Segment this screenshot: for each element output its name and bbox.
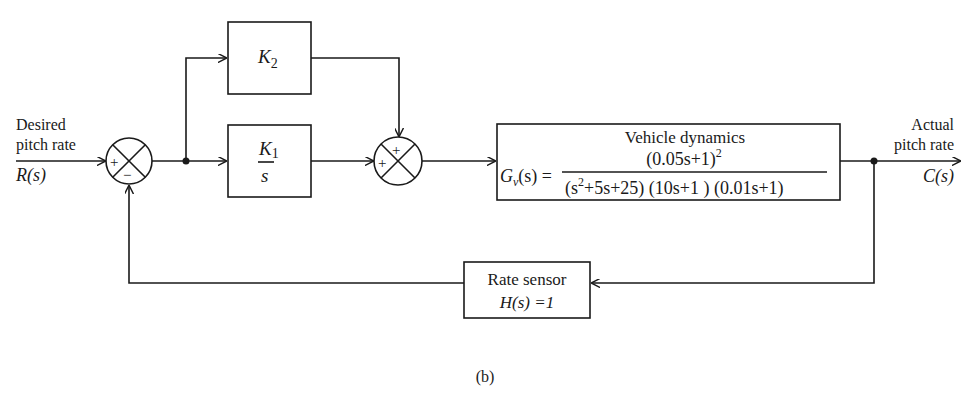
rate-sensor-block: Rate sensor H(s) =1 bbox=[464, 262, 590, 318]
output-label-line1: Actual bbox=[911, 116, 954, 133]
k1-integrator-block: K1 s bbox=[228, 125, 311, 197]
sum2-top-plus-sign: + bbox=[392, 142, 400, 158]
sum2-left-plus-sign: + bbox=[378, 155, 386, 171]
k2-block: K2 bbox=[228, 22, 311, 94]
sensor-block-equation: H(s) =1 bbox=[499, 293, 554, 312]
summing-junction-2: + + bbox=[374, 137, 422, 185]
branch-to-k2-arrow bbox=[186, 58, 226, 161]
figure-caption: (b) bbox=[476, 368, 495, 386]
summing-junction-1: + − bbox=[106, 138, 152, 184]
output-label-line2: pitch rate bbox=[894, 136, 954, 154]
sensor-to-sum1-arrow bbox=[129, 186, 464, 283]
vehicle-transfer-lhs: Gv(s) = bbox=[500, 166, 552, 189]
input-signal-label: R(s) bbox=[15, 165, 46, 186]
k1-subscript: 1 bbox=[272, 146, 279, 161]
input-label-line2: pitch rate bbox=[16, 136, 76, 154]
k2-to-sum2-arrow bbox=[311, 58, 399, 136]
block-diagram: Desired pitch rate R(s) + − K2 K1 s bbox=[0, 0, 971, 407]
vehicle-numerator: (0.05s+1)2 bbox=[646, 146, 722, 170]
sum1-minus-sign: − bbox=[123, 167, 131, 183]
vehicle-denominator: (s2+5s+25) (10s+1 ) (0.01s+1) bbox=[565, 175, 784, 199]
k1-denominator: s bbox=[261, 165, 268, 186]
vehicle-block-title: Vehicle dynamics bbox=[625, 128, 745, 147]
k2-subscript: 2 bbox=[271, 56, 278, 71]
sum1-plus-sign: + bbox=[110, 154, 118, 170]
vehicle-dynamics-block: Vehicle dynamics Gv(s) = (0.05s+1)2 (s2+… bbox=[497, 124, 840, 200]
input-label-line1: Desired bbox=[16, 116, 66, 133]
output-signal-label: C(s) bbox=[923, 166, 954, 187]
sensor-block-title: Rate sensor bbox=[488, 270, 567, 289]
